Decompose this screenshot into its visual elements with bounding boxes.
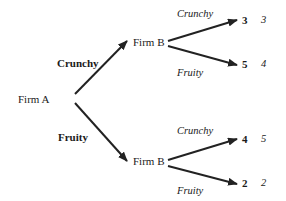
arrow-b2-crunchy [168,139,237,160]
root-node-label: Firm A [18,94,49,105]
arrow-b1-fruity [168,46,237,65]
payoff-b-3: 5 [261,134,266,145]
payoff-b-2: 4 [261,59,266,70]
payoff-b-1: 3 [261,15,266,26]
move-a-fruity: Fruity [58,132,88,143]
move-b1-crunchy: Crunchy [177,9,213,20]
payoff-b-4: 2 [261,178,266,189]
node-b-lower-label: Firm B [133,156,164,167]
payoff-a-3: 4 [242,134,248,145]
move-b2-crunchy: Crunchy [177,126,213,137]
payoff-a-1: 3 [242,15,248,26]
arrow-b2-fruity [168,166,237,184]
move-a-crunchy: Crunchy [57,58,99,69]
move-b1-fruity: Fruity [177,68,203,79]
move-b2-fruity: Fruity [177,186,203,197]
payoff-a-4: 2 [242,178,248,189]
payoff-a-2: 5 [242,59,248,70]
arrow-b1-crunchy [168,20,237,41]
node-b-upper-label: Firm B [133,37,164,48]
